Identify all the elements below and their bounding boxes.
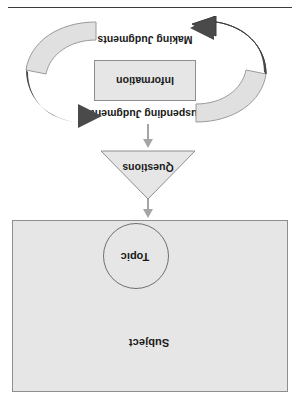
page-divider-rule [8,7,292,8]
arrowhead [143,209,153,218]
subject-box: Subject Topic [12,220,288,392]
questions-triangle: Questions [100,150,196,200]
arrow-stem [147,124,149,140]
topic-circle: Topic [103,223,169,289]
questions-label: Questions [100,162,196,174]
topic-label: Topic [102,251,168,263]
curved-arrow-icon-right [18,16,104,128]
diagram-figure: Subject Topic Questions Suspending Judgm… [0,0,300,404]
arrow-up-icon-questions-to-suspending [141,124,155,148]
page-canvas: Subject Topic Questions Suspending Judgm… [0,0,300,404]
information-label: Information [95,75,195,87]
curved-arrow-icon-left [188,16,274,128]
arrowhead [143,139,153,148]
subject-label: Subject [11,337,287,349]
information-box: Information [94,60,196,101]
